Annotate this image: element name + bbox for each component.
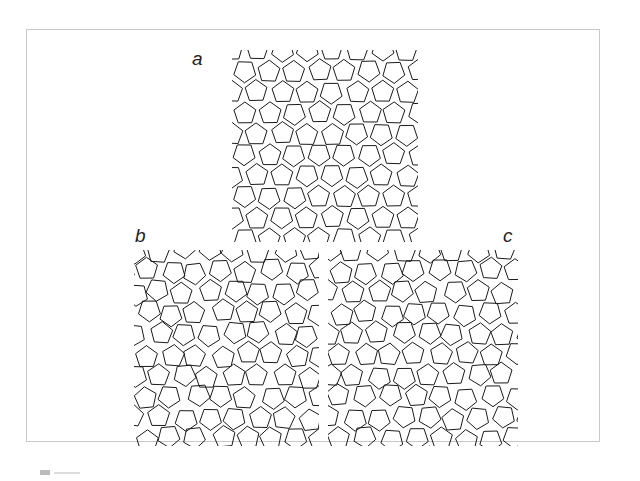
tiling-panel-c — [328, 250, 518, 446]
tiling-panel-b — [134, 250, 319, 446]
panel-label-b: b — [135, 225, 146, 247]
panel-label-c: c — [503, 225, 513, 247]
footer-mark — [40, 470, 50, 475]
tiling-panel-a — [232, 50, 418, 242]
panel-label-a: a — [192, 48, 203, 70]
footer-dash — [54, 472, 80, 474]
